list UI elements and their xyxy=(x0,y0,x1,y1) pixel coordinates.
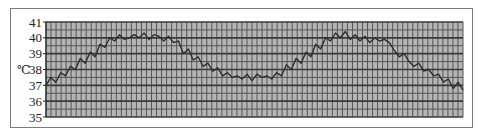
y-tick-labels: 35363738394041 xyxy=(29,15,43,125)
y-tick-label: 38 xyxy=(29,62,42,77)
y-tick-label: 41 xyxy=(29,15,42,30)
y-tick-label: 40 xyxy=(29,30,42,45)
y-axis xyxy=(43,22,46,117)
y-tick-label: 39 xyxy=(29,46,42,61)
y-axis-unit-label: ℃ xyxy=(17,63,30,77)
temperature-chart: 35363738394041 ℃ xyxy=(0,0,478,139)
y-tick-label: 35 xyxy=(29,110,42,125)
y-tick-label: 37 xyxy=(29,78,43,93)
y-tick-label: 36 xyxy=(29,94,43,109)
